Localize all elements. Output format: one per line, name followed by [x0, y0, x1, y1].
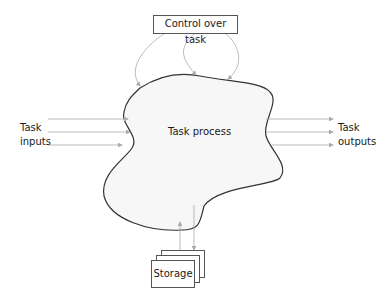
task-inputs-label-line2: inputs [20, 136, 51, 148]
task-outputs-label-line1: Task [338, 122, 360, 134]
task-inputs-label-line1: Task [20, 122, 42, 134]
control-over-task-box: Control over task [153, 15, 238, 34]
storage-box: Storage [151, 260, 195, 288]
storage-label: Storage [153, 268, 192, 279]
control-arrow-3 [225, 33, 239, 79]
task-outputs-label-line2: outputs [338, 136, 376, 148]
task-process-shape [104, 74, 283, 230]
task-process-label: Task process [168, 126, 231, 138]
